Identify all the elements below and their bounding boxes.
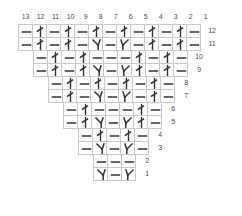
chart-cell-purl-stitch[interactable] [130,24,145,38]
chart-cell-twisted-knit-stitch[interactable] [60,24,75,38]
chart-cell-purl-stitch[interactable] [186,24,201,38]
chart-cell-purl-stitch[interactable] [93,154,108,168]
chart-cell-twisted-knit-stitch[interactable] [60,37,75,51]
chart-cell-purl-stitch[interactable] [107,154,122,168]
chart-cell-purl-stitch[interactable] [173,63,188,77]
chart-cell-left-leaning-decrease[interactable] [93,167,108,181]
chart-cell-purl-stitch[interactable] [78,128,93,142]
chart-cell-right-leaning-decrease[interactable] [116,37,131,51]
chart-cell-left-leaning-decrease[interactable] [92,141,107,155]
chart-cell-twisted-knit-stitch[interactable] [144,24,159,38]
chart-cell-purl-stitch[interactable] [103,50,118,64]
chart-cell-twisted-knit-stitch[interactable] [90,76,105,90]
chart-cell-right-leaning-decrease[interactable] [119,115,134,129]
chart-cell-twisted-knit-stitch[interactable] [47,63,62,77]
chart-cell-purl-stitch[interactable] [147,102,162,116]
chart-cell-twisted-knit-stitch[interactable] [146,76,161,90]
chart-cell-left-leaning-decrease[interactable] [89,63,104,77]
chart-cell-purl-stitch[interactable] [119,102,134,116]
chart-cell-purl-stitch[interactable] [76,89,91,103]
chart-cell-purl-stitch[interactable] [48,76,63,90]
chart-cell-twisted-knit-stitch[interactable] [131,63,146,77]
chart-cell-right-leaning-decrease[interactable] [121,167,136,181]
chart-cell-purl-stitch[interactable] [46,24,61,38]
chart-cell-purl-stitch[interactable] [160,89,175,103]
chart-cell-purl-stitch[interactable] [33,63,48,77]
chart-cell-purl-stitch[interactable] [186,37,201,51]
chart-cell-purl-stitch[interactable] [74,24,89,38]
chart-cell-purl-stitch[interactable] [173,50,188,64]
chart-cell-purl-stitch[interactable] [102,24,117,38]
chart-cell-purl-stitch[interactable] [106,141,121,155]
chart-cell-twisted-knit-stitch[interactable] [75,63,90,77]
chart-cell-purl-stitch[interactable] [103,63,118,77]
chart-cell-purl-stitch[interactable] [18,24,33,38]
chart-cell-purl-stitch[interactable] [106,128,121,142]
chart-cell-purl-stitch[interactable] [102,37,117,51]
chart-cell-purl-stitch[interactable] [61,63,76,77]
chart-cell-purl-stitch[interactable] [76,76,91,90]
chart-cell-purl-stitch[interactable] [105,115,120,129]
chart-cell-twisted-knit-stitch[interactable] [62,76,77,90]
chart-cell-purl-stitch[interactable] [18,37,33,51]
chart-cell-purl-stitch[interactable] [91,102,106,116]
chart-cell-purl-stitch[interactable] [145,63,160,77]
chart-cell-purl-stitch[interactable] [104,89,119,103]
chart-cell-twisted-knit-stitch[interactable] [131,50,146,64]
chart-cell-purl-stitch[interactable] [134,141,149,155]
chart-cell-purl-stitch[interactable] [134,128,149,142]
chart-cell-purl-stitch[interactable] [105,102,120,116]
chart-cell-right-leaning-decrease[interactable] [120,141,135,155]
chart-cell-right-leaning-decrease[interactable] [117,63,132,77]
chart-cell-twisted-knit-stitch[interactable] [88,24,103,38]
chart-cell-purl-stitch[interactable] [147,115,162,129]
chart-cell-twisted-knit-stitch[interactable] [159,63,174,77]
chart-cell-purl-stitch[interactable] [145,50,160,64]
chart-cell-twisted-knit-stitch[interactable] [116,24,131,38]
column-number-10: 10 [63,11,78,22]
chart-cell-purl-stitch[interactable] [132,89,147,103]
chart-cell-purl-stitch[interactable] [74,37,89,51]
chart-cell-twisted-knit-stitch[interactable] [120,128,135,142]
chart-cell-twisted-knit-stitch[interactable] [62,89,77,103]
chart-cell-twisted-knit-stitch[interactable] [118,76,133,90]
column-number-1: 1 [198,11,213,22]
chart-cell-purl-stitch[interactable] [61,50,76,64]
chart-cell-twisted-knit-stitch[interactable] [32,37,47,51]
chart-cell-purl-stitch[interactable] [46,37,61,51]
chart-cell-purl-stitch[interactable] [121,154,136,168]
chart-cell-purl-stitch[interactable] [117,50,132,64]
chart-cell-purl-stitch[interactable] [48,89,63,103]
chart-cell-purl-stitch[interactable] [33,50,48,64]
chart-cell-twisted-knit-stitch[interactable] [172,24,187,38]
chart-cell-purl-stitch[interactable] [158,37,173,51]
chart-cell-twisted-knit-stitch[interactable] [75,50,90,64]
chart-row: 2 [93,154,155,168]
chart-cell-purl-stitch[interactable] [130,37,145,51]
chart-row: 4 [78,128,168,142]
chart-cell-purl-stitch[interactable] [63,115,78,129]
chart-cell-twisted-knit-stitch[interactable] [172,37,187,51]
chart-cell-purl-stitch[interactable] [89,50,104,64]
chart-cell-twisted-knit-stitch[interactable] [92,128,107,142]
chart-cell-purl-stitch[interactable] [107,167,122,181]
chart-cell-left-leaning-decrease[interactable] [90,89,105,103]
chart-cell-purl-stitch[interactable] [132,76,147,90]
chart-cell-purl-stitch[interactable] [158,24,173,38]
chart-cell-twisted-knit-stitch[interactable] [133,102,148,116]
chart-cell-twisted-knit-stitch[interactable] [133,115,148,129]
chart-cell-purl-stitch[interactable] [78,141,93,155]
chart-cell-twisted-knit-stitch[interactable] [146,89,161,103]
chart-cell-purl-stitch[interactable] [160,76,175,90]
chart-cell-twisted-knit-stitch[interactable] [32,24,47,38]
chart-cell-purl-stitch[interactable] [63,102,78,116]
chart-cell-twisted-knit-stitch[interactable] [159,50,174,64]
chart-cell-twisted-knit-stitch[interactable] [77,102,92,116]
chart-cell-twisted-knit-stitch[interactable] [144,37,159,51]
chart-cell-left-leaning-decrease[interactable] [91,115,106,129]
chart-cell-twisted-knit-stitch[interactable] [77,115,92,129]
chart-cell-twisted-knit-stitch[interactable] [47,50,62,64]
chart-cell-purl-stitch[interactable] [104,76,119,90]
chart-cell-left-leaning-decrease[interactable] [88,37,103,51]
chart-cell-right-leaning-decrease[interactable] [118,89,133,103]
